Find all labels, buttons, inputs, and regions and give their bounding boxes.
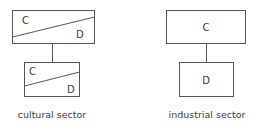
industrial-sector-diagram: C D industrial sector [167,11,246,121]
cultural-bottom-label-d: D [67,84,75,95]
industrial-top-label-c: C [203,22,210,33]
industrial-sector-caption: industrial sector [169,109,246,120]
cultural-sector-caption: cultural sector [18,109,87,120]
cultural-bottom-label-c: C [29,66,36,77]
industrial-bottom-label-d: D [202,75,210,86]
cultural-sector-diagram: C D C D cultural sector [13,11,95,121]
cultural-top-label-c: C [22,15,29,26]
cultural-top-label-d: D [76,29,84,40]
sector-diagram-canvas: C D C D cultural sector C D industrial s… [0,0,260,130]
